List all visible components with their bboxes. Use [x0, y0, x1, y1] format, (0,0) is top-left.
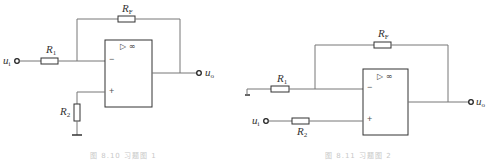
- left-r2-resistor: [74, 104, 80, 121]
- left-circuit: [15, 16, 202, 135]
- right-plus-sign: +: [367, 115, 372, 124]
- right-output-terminal: [469, 100, 474, 105]
- left-opamp-symbol: ▷ ∞: [120, 42, 135, 51]
- right-output-label: uo: [476, 96, 485, 107]
- left-r2-label: R2: [60, 106, 70, 117]
- left-output-label: uo: [205, 67, 214, 78]
- right-r1-label: R1: [277, 73, 287, 84]
- right-opamp-symbol: ▷ ∞: [377, 72, 392, 81]
- right-r1-resistor: [271, 86, 289, 92]
- right-input-label: ui: [252, 115, 259, 126]
- right-rf-label: RF: [378, 28, 389, 39]
- left-caption: 图 8.10 习题图 1: [90, 150, 157, 160]
- left-input-label: ui: [3, 55, 10, 66]
- right-minus-sign: −: [367, 83, 372, 92]
- left-minus-sign: −: [109, 55, 114, 64]
- circuit-diagrams: [0, 0, 487, 162]
- left-input-terminal: [15, 59, 20, 64]
- right-r2-label: R2: [297, 126, 307, 137]
- right-r2-resistor: [292, 118, 309, 124]
- right-rf-resistor: [374, 42, 391, 48]
- left-rf-resistor: [118, 16, 135, 22]
- left-output-terminal: [197, 71, 202, 76]
- right-input-terminal: [264, 119, 269, 124]
- right-circuit: [245, 42, 473, 135]
- left-rf-label: RF: [122, 3, 133, 14]
- left-r1-resistor: [41, 58, 58, 64]
- left-plus-sign: +: [109, 87, 114, 96]
- left-r1-label: R1: [46, 44, 56, 55]
- right-caption: 图 8.11 习题图 2: [325, 150, 392, 160]
